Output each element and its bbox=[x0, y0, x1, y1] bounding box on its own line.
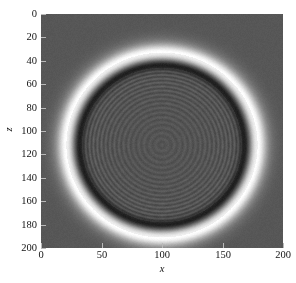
x-tick-mark bbox=[41, 243, 42, 248]
x-tick-label: 100 bbox=[142, 250, 182, 260]
x-tick-mark bbox=[223, 243, 224, 248]
y-tick-mark bbox=[41, 178, 46, 179]
y-tick-label: 120 bbox=[0, 149, 37, 159]
x-tick-mark bbox=[102, 243, 103, 248]
y-tick-mark bbox=[41, 131, 46, 132]
x-tick-mark bbox=[283, 243, 284, 248]
y-tick-mark bbox=[41, 154, 46, 155]
figure-container: 020406080100120140160180200 050100150200… bbox=[0, 0, 296, 283]
x-tick-mark bbox=[162, 243, 163, 248]
x-tick-label: 50 bbox=[82, 250, 122, 260]
y-tick-label: 80 bbox=[0, 103, 37, 113]
grayscale-field-image bbox=[41, 14, 283, 248]
x-tick-label: 0 bbox=[21, 250, 61, 260]
x-axis-title: x bbox=[41, 263, 283, 274]
y-axis-title: z bbox=[3, 121, 14, 139]
y-tick-label: 140 bbox=[0, 173, 37, 183]
y-tick-mark bbox=[41, 225, 46, 226]
y-tick-mark bbox=[41, 84, 46, 85]
y-tick-mark bbox=[41, 201, 46, 202]
y-tick-label: 160 bbox=[0, 196, 37, 206]
y-tick-label: 180 bbox=[0, 220, 37, 230]
y-tick-mark bbox=[41, 14, 46, 15]
x-tick-label: 200 bbox=[263, 250, 296, 260]
y-tick-mark bbox=[41, 61, 46, 62]
y-tick-label: 20 bbox=[0, 32, 37, 42]
y-tick-label: 40 bbox=[0, 56, 37, 66]
y-tick-label: 0 bbox=[0, 9, 37, 19]
y-tick-label: 60 bbox=[0, 79, 37, 89]
y-tick-mark bbox=[41, 37, 46, 38]
x-tick-label: 150 bbox=[203, 250, 243, 260]
y-tick-mark bbox=[41, 108, 46, 109]
field-image-plot-area bbox=[41, 14, 283, 248]
